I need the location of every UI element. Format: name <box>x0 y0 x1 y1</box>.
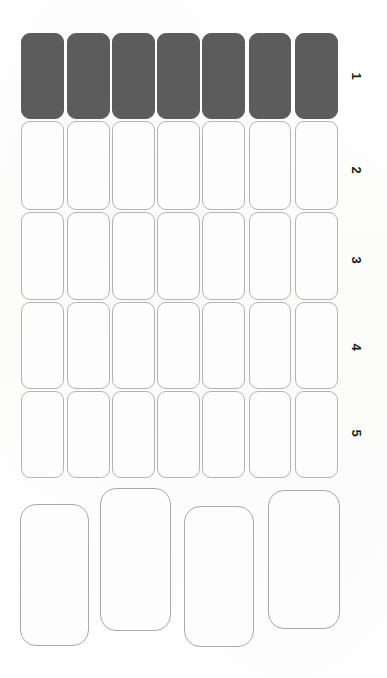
grid-cell[interactable] <box>67 33 110 119</box>
grid-cell[interactable] <box>249 212 291 300</box>
grid-cell[interactable] <box>249 121 291 210</box>
grid-cell[interactable] <box>157 212 200 300</box>
grid-cell[interactable] <box>202 391 245 478</box>
bottom-band-cell[interactable] <box>100 488 171 631</box>
grid-cell[interactable] <box>112 302 155 389</box>
grid-cell[interactable] <box>21 302 64 389</box>
row-label: 4 <box>349 339 363 355</box>
grid-cell[interactable] <box>157 302 200 389</box>
grid-cell[interactable] <box>67 391 110 478</box>
grid-cell[interactable] <box>202 302 245 389</box>
bottom-band-cell[interactable] <box>20 504 89 646</box>
grid-cell[interactable] <box>21 33 64 119</box>
grid-cell[interactable] <box>295 33 338 119</box>
grid-cell[interactable] <box>295 302 338 389</box>
grid-cell[interactable] <box>157 391 200 478</box>
row-label: 2 <box>349 162 363 178</box>
bottom-band-cell[interactable] <box>268 490 340 629</box>
scanned-sheet: 12345 <box>0 0 387 678</box>
grid-cell[interactable] <box>202 212 245 300</box>
grid-cell[interactable] <box>157 121 200 210</box>
grid-cell[interactable] <box>67 121 110 210</box>
grid-cell[interactable] <box>112 33 155 119</box>
grid-cell[interactable] <box>67 302 110 389</box>
grid-cell[interactable] <box>295 391 338 478</box>
grid-cell[interactable] <box>21 212 64 300</box>
grid-cell[interactable] <box>295 121 338 210</box>
grid-cell[interactable] <box>249 33 291 119</box>
row-label: 1 <box>349 68 363 84</box>
row-label: 5 <box>349 425 363 441</box>
grid-cell[interactable] <box>112 121 155 210</box>
grid-cell[interactable] <box>202 33 245 119</box>
grid-cell[interactable] <box>67 212 110 300</box>
grid-cell[interactable] <box>112 391 155 478</box>
bottom-band-cell[interactable] <box>184 506 254 647</box>
grid-cell[interactable] <box>295 212 338 300</box>
grid-cell[interactable] <box>21 391 64 478</box>
grid-cell[interactable] <box>157 33 200 119</box>
grid-cell[interactable] <box>249 302 291 389</box>
row-label: 3 <box>349 252 363 268</box>
grid-cell[interactable] <box>202 121 245 210</box>
grid-cell[interactable] <box>21 121 64 210</box>
grid-cell[interactable] <box>249 391 291 478</box>
grid-cell[interactable] <box>112 212 155 300</box>
